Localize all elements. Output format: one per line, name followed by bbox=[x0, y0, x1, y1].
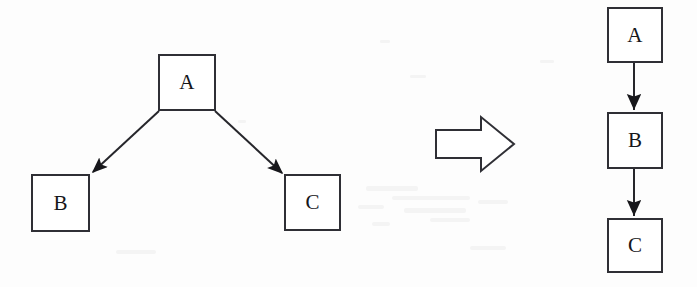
node-left-c-label: C bbox=[305, 192, 319, 213]
node-left-b-label: B bbox=[53, 193, 67, 214]
node-left-a[interactable]: A bbox=[158, 54, 216, 111]
node-left-c[interactable]: C bbox=[284, 174, 341, 231]
diagram-canvas: A B C A B C bbox=[0, 0, 697, 287]
edge-left-a-to-b bbox=[93, 111, 159, 172]
node-right-c[interactable]: C bbox=[607, 218, 663, 273]
edge-left-a-to-c bbox=[215, 111, 282, 173]
node-right-b[interactable]: B bbox=[607, 112, 663, 169]
edges-layer bbox=[0, 0, 697, 287]
node-left-b[interactable]: B bbox=[31, 174, 90, 232]
node-right-a-label: A bbox=[627, 25, 642, 46]
node-right-b-label: B bbox=[628, 130, 642, 151]
implies-block-arrow-shape bbox=[436, 117, 514, 171]
node-right-c-label: C bbox=[628, 235, 642, 256]
node-left-a-label: A bbox=[179, 72, 194, 93]
node-right-a[interactable]: A bbox=[607, 7, 663, 63]
